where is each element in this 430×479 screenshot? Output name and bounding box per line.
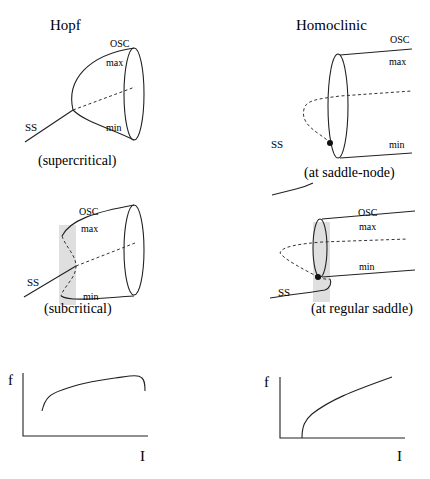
max-label: max	[389, 56, 406, 67]
fi-plot-hopf: f I	[8, 372, 148, 464]
saddle-node-point	[327, 140, 333, 146]
unstable-ss-dashed	[76, 243, 135, 266]
unstable-ss-dashed	[73, 87, 135, 110]
ss-branch-line	[272, 183, 313, 195]
i-axis-label: I	[140, 448, 145, 464]
osc-max-branch	[340, 49, 412, 55]
unstable-branch-dashed	[303, 91, 412, 143]
panel-homoclinic-saddle-node: OSC max min SS (at saddle-node)	[271, 34, 412, 195]
caption-supercritical: (supercritical)	[38, 153, 117, 169]
fi-plot-homoclinic: f I	[264, 374, 405, 464]
hopf-title: Hopf	[50, 17, 81, 33]
ss-label: SS	[25, 121, 37, 133]
homoclinic-title: Homoclinic	[296, 17, 367, 33]
f-axis-label: f	[8, 372, 13, 388]
unstable-branch-dashed	[280, 239, 408, 277]
caption-subcritical: (subcritical)	[44, 301, 112, 317]
bistability-shaded-region	[59, 225, 76, 305]
min-label: min	[359, 261, 375, 272]
panel-homoclinic-regular-saddle: OSC max min SS (at regular saddle)	[270, 207, 415, 317]
panel-hopf-supercritical: OSC max min SS (supercritical)	[25, 38, 144, 169]
max-label: max	[106, 57, 123, 68]
osc-label: OSC	[110, 38, 130, 49]
fi-axes	[23, 373, 148, 436]
min-label: min	[389, 139, 405, 150]
osc-label: OSC	[390, 34, 410, 45]
fi-curve-homoclinic	[302, 377, 392, 438]
fi-axes	[280, 377, 405, 438]
saddle-point	[315, 274, 321, 280]
bistability-shaded-region	[313, 222, 330, 302]
panel-hopf-subcritical: OSC max min SS (subcritical)	[24, 205, 144, 317]
i-axis-label: I	[397, 448, 402, 464]
osc-min-branch	[340, 153, 412, 158]
osc-label: OSC	[79, 206, 99, 217]
limit-cycle-ellipse	[124, 48, 144, 140]
max-label: max	[81, 223, 98, 234]
caption-saddle-node: (at saddle-node)	[304, 165, 395, 181]
max-label: max	[359, 221, 376, 232]
ss-label: SS	[278, 286, 290, 298]
f-axis-label: f	[264, 374, 269, 390]
caption-regular-saddle: (at regular saddle)	[311, 301, 413, 317]
fi-curve-hopf	[42, 376, 145, 411]
bifurcation-figure: Hopf Homoclinic OSC max min SS (supercri…	[0, 0, 430, 479]
limit-cycle-ellipse	[124, 205, 144, 295]
min-label: min	[106, 122, 122, 133]
ss-label: SS	[271, 138, 283, 150]
ss-label: SS	[27, 276, 39, 288]
osc-label: OSC	[358, 207, 378, 218]
